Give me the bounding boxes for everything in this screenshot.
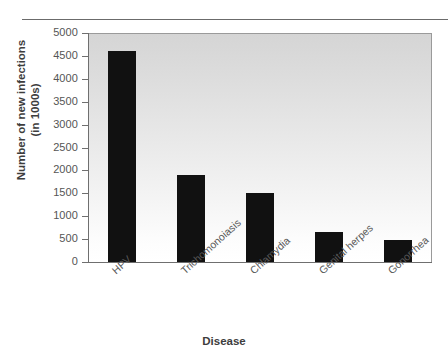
bars-layer <box>88 33 432 262</box>
y-axis-title-line2: (in 1000s) <box>28 30 42 190</box>
y-axis-tick <box>82 262 88 263</box>
y-axis-title-line1: Number of new infections <box>14 30 28 190</box>
y-axis-tick-label: 1000 <box>26 210 78 221</box>
bar <box>108 51 136 262</box>
y-axis-tick-label: 0 <box>26 256 78 267</box>
x-axis-title: Disease <box>0 334 448 348</box>
y-axis-tick-label: 500 <box>26 233 78 244</box>
bar-chart-figure: 0500100015002000250030003500400045005000… <box>0 0 448 358</box>
top-divider-rule <box>22 19 448 20</box>
y-axis-title: Number of new infections (in 1000s) <box>14 30 42 190</box>
